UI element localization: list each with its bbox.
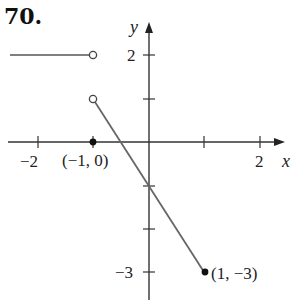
point-label-neg1-0: (−1, 0): [62, 151, 108, 170]
y-tick-label-2: 2: [127, 46, 136, 65]
open-point-neg1-1: [89, 95, 96, 102]
piecewise-function-graph: 70. −2 2 x 2 −3 y (−1, 0) (1, −3): [0, 0, 304, 307]
problem-number: 70.: [4, 3, 42, 29]
x-tick-label-neg2: −2: [20, 152, 38, 171]
y-tick-label-neg3: −3: [115, 263, 133, 282]
y-axis-label: y: [128, 17, 138, 37]
x-tick-label-2: 2: [255, 152, 264, 171]
closed-point-neg1-0: [90, 139, 97, 146]
open-point-neg1-2: [89, 51, 96, 58]
y-axis: 2 −3 y: [115, 17, 155, 300]
x-axis-arrow-icon: [274, 138, 285, 146]
closed-point-1-neg3: [202, 269, 209, 276]
y-axis-arrow-icon: [145, 22, 153, 33]
x-axis-label: x: [281, 151, 290, 171]
point-label-1-neg3: (1, −3): [211, 264, 257, 283]
